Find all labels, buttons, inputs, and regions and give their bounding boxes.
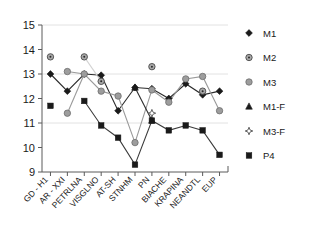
x-axis-label: EUP — [200, 174, 219, 194]
series-lines — [50, 57, 219, 165]
legend-marker-m3 — [246, 79, 252, 85]
data-point-m3 — [199, 73, 205, 79]
axis-spine — [42, 25, 228, 172]
chart-axes — [42, 25, 228, 172]
data-point-m3 — [64, 110, 70, 116]
y-tick-label: 14 — [23, 44, 35, 56]
legend-marker-m1-f — [246, 103, 253, 109]
data-point-m3 — [81, 71, 87, 77]
x-axis-labels: GD - H1AR - XXIPETRLNAVISGLNOAT-SHSTNHMP… — [21, 174, 219, 210]
legend-item-p4[interactable]: P4 — [246, 150, 274, 161]
legend-marker-m2 — [248, 57, 250, 59]
data-point-p4 — [200, 128, 206, 134]
data-point-p4 — [217, 152, 223, 158]
legend-marker-m3-f — [245, 127, 253, 135]
data-point-p4 — [48, 103, 54, 109]
line-chart: 9101112131415 GD - H1AR - XXIPETRLNAVISG… — [0, 0, 326, 226]
y-tick-label: 9 — [29, 166, 35, 178]
data-point-m3 — [183, 76, 189, 82]
y-tick-label: 15 — [23, 19, 35, 31]
data-point-p4 — [115, 135, 121, 141]
y-tick-label: 11 — [24, 117, 35, 129]
series-markers — [47, 54, 223, 168]
data-point-p4 — [98, 123, 104, 129]
y-tick-label: 12 — [23, 93, 35, 105]
legend-label-m3: M3 — [263, 77, 276, 88]
data-point-m2 — [151, 66, 153, 68]
data-point-m3 — [132, 139, 138, 145]
data-point-m3 — [216, 108, 222, 114]
legend-item-m3-f[interactable]: M3-F — [245, 126, 285, 137]
series-line-m2 — [84, 57, 101, 82]
data-point-p4 — [132, 162, 138, 168]
data-point-m1 — [216, 88, 223, 95]
chart-figure: 9101112131415 GD - H1AR - XXIPETRLNAVISG… — [0, 0, 326, 226]
data-point-m2 — [49, 56, 51, 58]
data-point-m3 — [166, 99, 172, 105]
data-point-p4 — [149, 118, 155, 124]
data-point-m2 — [100, 80, 102, 82]
legend-item-m1-f[interactable]: M1-F — [246, 101, 286, 112]
legend-item-m3[interactable]: M3 — [246, 77, 276, 88]
data-point-m3 — [115, 93, 121, 99]
chart-legend: M1M2M3M1-FM3-FP4 — [245, 28, 285, 162]
data-point-p4 — [81, 98, 87, 104]
y-tick-label: 13 — [23, 68, 35, 80]
data-point-m3 — [149, 87, 155, 93]
legend-label-m3-f: M3-F — [263, 126, 285, 137]
legend-label-p4: P4 — [263, 150, 275, 161]
legend-label-m1: M1 — [263, 28, 276, 39]
data-point-m3 — [64, 68, 70, 74]
data-point-p4 — [166, 128, 172, 134]
y-axis-ticks: 9101112131415 — [23, 19, 42, 178]
legend-marker-m1 — [246, 30, 253, 37]
legend-marker-p4 — [246, 153, 252, 159]
data-point-m2 — [83, 56, 85, 58]
legend-item-m2[interactable]: M2 — [246, 52, 276, 63]
data-point-m2 — [202, 90, 204, 92]
legend-item-m1[interactable]: M1 — [246, 28, 277, 39]
legend-label-m1-f: M1-F — [263, 101, 285, 112]
y-tick-label: 10 — [23, 142, 35, 154]
data-point-m3 — [98, 88, 104, 94]
data-point-p4 — [183, 123, 189, 129]
series-line-m3 — [67, 72, 219, 143]
series-line-m3-extra — [67, 74, 84, 113]
legend-label-m2: M2 — [263, 52, 276, 63]
